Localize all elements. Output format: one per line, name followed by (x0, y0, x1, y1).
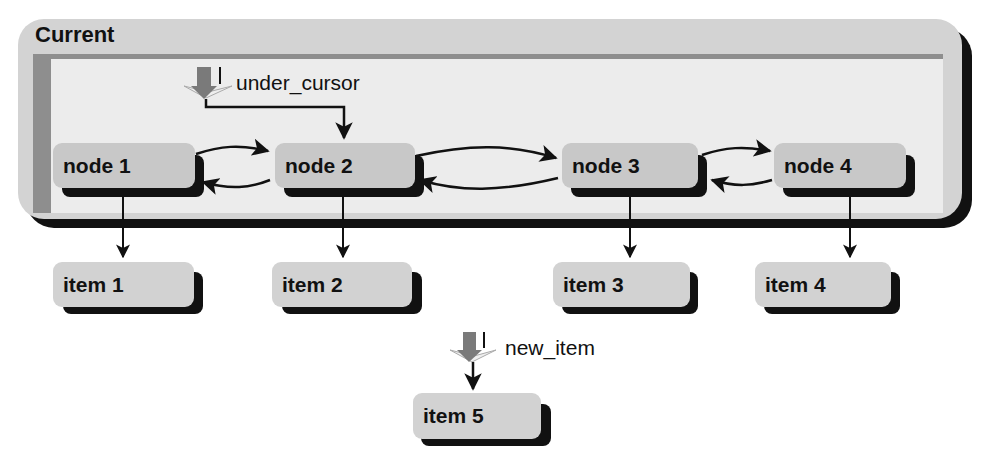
current-container-title: Current (35, 22, 114, 48)
item-4-label: item 4 (765, 273, 826, 297)
current-panel-left-bar (33, 54, 51, 213)
item-5[interactable]: item 5 (413, 393, 541, 439)
new-item-label: new_item (505, 336, 595, 360)
node-1-label: node 1 (63, 154, 131, 178)
new-item-pointer-icon (450, 332, 496, 362)
node-1[interactable]: node 1 (53, 143, 195, 188)
item-3[interactable]: item 3 (553, 262, 690, 307)
node-2-label: node 2 (285, 154, 353, 178)
item-2[interactable]: item 2 (272, 262, 412, 307)
item-4[interactable]: item 4 (755, 262, 891, 307)
node-3[interactable]: node 3 (562, 143, 698, 188)
item-1[interactable]: item 1 (53, 262, 194, 307)
node-3-label: node 3 (572, 154, 640, 178)
node-4[interactable]: node 4 (774, 143, 906, 188)
item-5-label: item 5 (423, 404, 484, 428)
under-cursor-label: under_cursor (236, 71, 360, 95)
item-1-label: item 1 (63, 273, 124, 297)
item-2-label: item 2 (282, 273, 343, 297)
item-3-label: item 3 (563, 273, 624, 297)
node-2[interactable]: node 2 (275, 143, 415, 188)
node-4-label: node 4 (784, 154, 852, 178)
